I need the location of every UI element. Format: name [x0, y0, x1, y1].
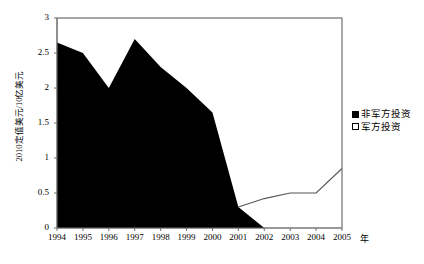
y-tick-label: 1	[23, 152, 49, 162]
legend-label-non-military: 非军方投资	[361, 108, 411, 121]
chart-container: 2010定值美元/10亿美元 00.511.522.53 19941995199…	[0, 0, 424, 264]
y-tick-label: 1.5	[23, 117, 49, 127]
legend-item-non-military: 非军方投资	[352, 108, 411, 121]
filled-square-icon	[352, 111, 359, 118]
y-tick-label: 0	[23, 222, 49, 232]
legend-label-military: 军方投资	[361, 121, 401, 134]
chart-legend: 非军方投资 军方投资	[352, 108, 411, 133]
x-tick-label: 2005	[325, 232, 359, 242]
hollow-square-icon	[352, 123, 359, 130]
y-tick-label: 0.5	[23, 187, 49, 197]
y-tick-label: 2.5	[23, 47, 49, 57]
legend-item-military: 军方投资	[352, 121, 411, 134]
y-tick-label: 2	[23, 82, 49, 92]
y-axis-title: 2010定值美元/10亿美元	[12, 36, 24, 196]
x-axis-unit-label: 年	[360, 232, 369, 245]
y-tick-label: 3	[23, 12, 49, 22]
